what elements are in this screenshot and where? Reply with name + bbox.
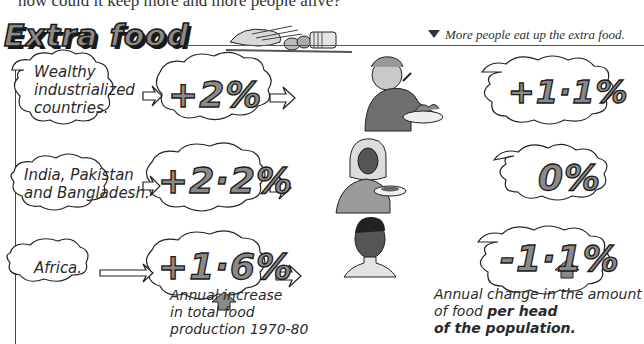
region-line: Wealthy (34, 63, 135, 81)
region-label-south-asia: India, Pakistan and Bangladesh. (24, 166, 150, 202)
region-label-wealthy: Wealthy industrialized countries. (34, 63, 135, 117)
total-increase-south-asia: +2·2% (158, 160, 293, 201)
wealthy-man-eating-icon (355, 55, 445, 135)
region-line: industrialized (34, 81, 135, 99)
note-emphasis: of the population. (434, 320, 576, 336)
per-head-change-south-asia: 0% (538, 157, 601, 198)
note-line: production 1970-80 (170, 321, 308, 338)
total-increase-wealthy: +2% (168, 74, 262, 115)
per-head-change-wealthy: +1·1% (508, 73, 629, 111)
per-head-change-africa: -1·1% (500, 238, 620, 279)
region-line: India, Pakistan (24, 166, 150, 184)
note-text: of food (434, 303, 487, 319)
woman-with-plate-icon (330, 135, 410, 215)
note-emphasis: per head (487, 303, 557, 319)
region-line: countries. (34, 99, 135, 117)
region-line: and Bangladesh. (24, 184, 150, 202)
total-increase-africa: +1·6% (158, 246, 293, 287)
per-head-note: Annual change in the amount of food per … (434, 286, 642, 337)
total-production-note: Annual increase in total food production… (170, 287, 308, 338)
african-boy-icon (340, 215, 400, 279)
note-line: Annual change in the amount (434, 286, 642, 303)
note-line: of the population. (434, 320, 642, 337)
region-label-africa: Africa. (34, 259, 82, 277)
note-line: in total food (170, 304, 308, 321)
note-line: Annual increase (170, 287, 308, 304)
note-line: of food per head (434, 303, 642, 320)
